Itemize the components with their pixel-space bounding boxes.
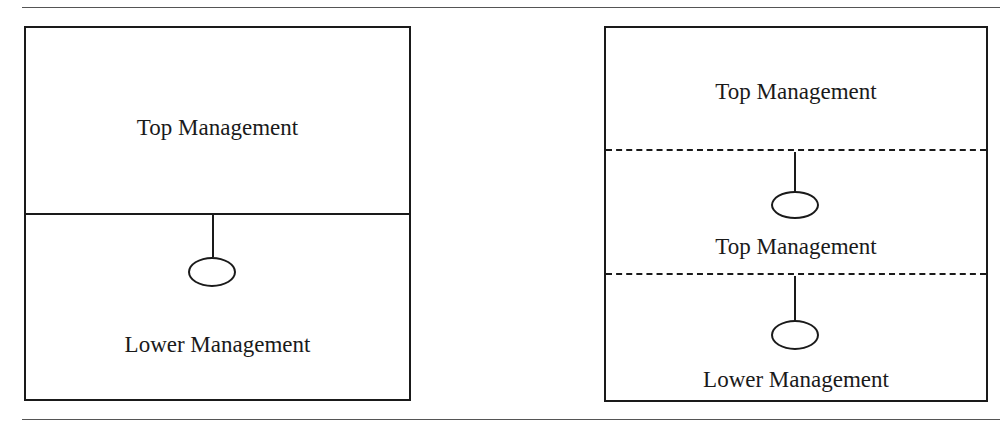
right-top-management-label-2: Top Management (606, 235, 986, 258)
right-dashed-divider-1 (606, 149, 986, 151)
right-connector-oval-1-icon (771, 191, 819, 219)
right-connector-stem-1 (794, 152, 796, 192)
left-panel: Top Management Lower Management (24, 26, 411, 401)
right-lower-management-label: Lower Management (606, 368, 986, 391)
left-connector-oval-icon (188, 257, 236, 287)
bottom-rule (22, 419, 1000, 420)
left-top-management-label: Top Management (26, 116, 409, 139)
right-connector-stem-2 (794, 276, 796, 321)
left-solid-divider (26, 213, 409, 215)
left-lower-management-label: Lower Management (26, 333, 409, 356)
right-dashed-divider-2 (606, 273, 986, 275)
left-connector-stem (212, 215, 214, 257)
right-top-management-label-1: Top Management (606, 80, 986, 103)
top-rule (22, 7, 1000, 8)
right-panel: Top Management Top Management Lower Mana… (604, 26, 988, 402)
right-connector-oval-2-icon (771, 320, 819, 350)
